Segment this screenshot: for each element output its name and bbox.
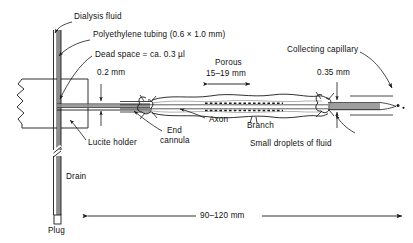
- drain-tube: [54, 156, 62, 224]
- label-collecting-capillary: Collecting capillary: [287, 45, 358, 55]
- label-end-cannula-line1: End: [167, 126, 182, 136]
- label-end-cannula-line2: cannula: [160, 136, 190, 146]
- label-branch: Branch: [247, 121, 274, 131]
- label-axon: Axon: [209, 115, 228, 125]
- vertical-dialysis-tube: [54, 30, 62, 157]
- label-drain: Drain: [66, 172, 86, 182]
- label-plug: Plug: [48, 226, 65, 236]
- label-porous-length: 15–19 mm: [206, 69, 246, 79]
- collecting-capillary-tube: [328, 103, 396, 110]
- figure-container: Dialysis fluid Polyethylene tubing (0.6 …: [0, 0, 413, 243]
- label-dimension-0-35mm: 0.35 mm: [317, 68, 350, 78]
- porous-section: [205, 103, 283, 110]
- label-small-droplets: Small droplets of fluid: [250, 139, 332, 149]
- label-dialysis-fluid: Dialysis fluid: [74, 12, 122, 22]
- label-polyethylene-tubing: Polyethylene tubing (0.6 × 1.0 mm): [93, 30, 225, 40]
- label-dead-space: Dead space = ca. 0.3 µl: [95, 50, 185, 60]
- label-dimension-0-2mm: 0.2 mm: [97, 68, 125, 78]
- fluid-droplets: [397, 104, 405, 109]
- label-overall-length: 90–120 mm: [200, 211, 245, 221]
- lucite-holder-block: [17, 79, 88, 128]
- horizontal-cannula-assembly: [57, 102, 330, 113]
- label-porous-title: Porous: [215, 58, 242, 68]
- label-lucite-holder: Lucite holder: [88, 138, 137, 148]
